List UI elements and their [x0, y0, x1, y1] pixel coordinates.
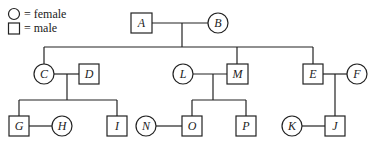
individual-e: E [303, 64, 323, 84]
svg-text:H: H [57, 119, 68, 133]
svg-text:O: O [188, 119, 197, 133]
individual-k: K [282, 116, 302, 136]
svg-text:K: K [287, 119, 297, 133]
svg-text:G: G [15, 119, 24, 133]
individual-p: P [236, 116, 256, 136]
individual-g: G [9, 116, 29, 136]
svg-text:M: M [232, 67, 244, 81]
individual-i: I [107, 116, 127, 136]
svg-text:B: B [214, 16, 222, 30]
individual-a: A [131, 13, 152, 33]
legend-female-label: = female [24, 7, 66, 21]
individual-l: L [173, 64, 193, 84]
svg-text:L: L [179, 67, 187, 81]
individual-o: O [182, 116, 202, 136]
svg-text:D: D [84, 67, 94, 81]
individual-c: C [34, 64, 54, 84]
svg-text:J: J [332, 119, 338, 133]
male-legend-icon [9, 23, 20, 34]
individual-m: M [227, 64, 248, 84]
individual-h: H [52, 116, 72, 136]
svg-text:P: P [241, 119, 250, 133]
legend-male-label: = male [24, 21, 57, 35]
individual-f: F [347, 64, 367, 84]
svg-text:F: F [352, 67, 361, 81]
svg-text:A: A [137, 16, 146, 30]
individual-n: N [136, 116, 156, 136]
svg-text:C: C [40, 67, 49, 81]
svg-text:E: E [308, 67, 317, 81]
pedigree-chart: = female = male A [0, 0, 373, 143]
individual-j: J [325, 116, 345, 136]
legend: = female = male [9, 7, 67, 35]
svg-text:N: N [141, 119, 151, 133]
female-legend-icon [9, 9, 20, 20]
individual-d: D [79, 64, 99, 84]
individual-b: B [208, 13, 228, 33]
